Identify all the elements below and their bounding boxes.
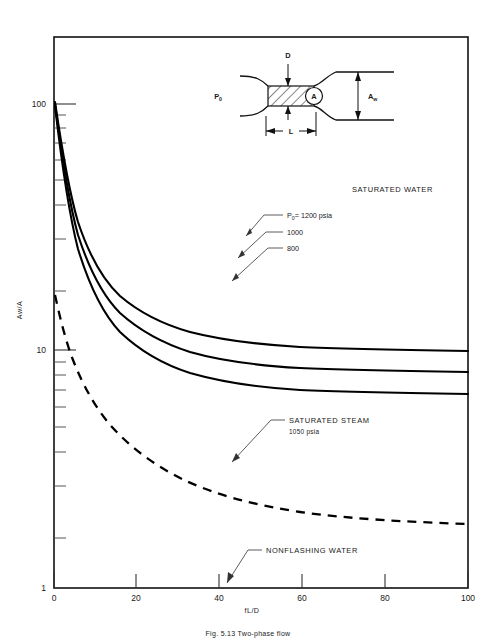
curve-label-1000: 1000 xyxy=(287,228,303,237)
schematic-pipe-area-sub: w xyxy=(372,96,378,102)
schematic-d-arrow-lower xyxy=(285,106,291,114)
annotation-saturated-water: SATURATED WATER xyxy=(352,185,433,194)
schematic-pipe-area-label: Aw xyxy=(368,92,378,102)
schematic-d-arrow-upper xyxy=(285,78,291,86)
x-tick-label-0: 0 xyxy=(52,593,57,603)
schematic-throat-area-label: A xyxy=(311,92,317,101)
schematic-aw-arrow-top xyxy=(355,72,361,81)
schematic-l-arrow-left xyxy=(266,128,275,134)
curve-label-1200: P0= 1200 psia xyxy=(287,211,332,221)
annotation-nonflashing-water: NONFLASHING WATER xyxy=(266,546,358,555)
y-tick-label-10: 10 xyxy=(37,345,47,355)
annotation-saturated-steam-pressure: 1050 psia xyxy=(289,428,320,436)
schematic-diameter-label: D xyxy=(285,51,291,60)
curve-p0-1000 xyxy=(55,104,468,372)
curve-label-800: 800 xyxy=(287,244,299,253)
x-axis-title: fL/D xyxy=(245,606,260,615)
nonflashing-water-leader xyxy=(227,550,262,583)
x-tick-label-100: 100 xyxy=(461,593,475,603)
y-axis-title: Aw/A xyxy=(15,301,24,319)
chart-canvas: 100 10 1 0 20 40 60 80 100 fL/D Aw/A xyxy=(0,0,496,642)
schematic-length-label: L xyxy=(289,127,294,136)
y-tick-label-1: 1 xyxy=(41,583,46,593)
x-tick-label-20: 20 xyxy=(131,593,141,603)
x-tick-label-40: 40 xyxy=(214,593,224,603)
annotation-saturated-steam: SATURATED STEAM xyxy=(289,416,369,425)
figure-two-phase-flow: 100 10 1 0 20 40 60 80 100 fL/D Aw/A xyxy=(0,0,496,642)
schematic-downstream-wall-bottom xyxy=(314,106,394,120)
schematic-inlet-pressure-label: P0 xyxy=(214,92,222,102)
x-axis-ticks xyxy=(54,572,468,588)
plot-frame xyxy=(54,37,468,588)
x-tick-label-80: 80 xyxy=(380,593,390,603)
schematic-aw-arrow-bottom xyxy=(355,111,361,120)
schematic-downstream-wall-top xyxy=(314,72,394,86)
figure-caption: Fig. 5.13 Two-phase flow xyxy=(206,630,292,638)
curve-label-1200-suffix: = 1200 psia xyxy=(295,211,332,220)
y-tick-label-100: 100 xyxy=(32,99,46,109)
x-tick-label-60: 60 xyxy=(297,593,307,603)
nozzle-schematic: A D L Aw P0 xyxy=(214,51,394,136)
curve-p0-1200 xyxy=(55,102,468,351)
saturated-steam-leader xyxy=(232,420,285,462)
schematic-upstream-wall-bottom xyxy=(240,106,268,116)
schematic-upstream-wall-top xyxy=(240,76,268,86)
schematic-inlet-pressure-sub: 0 xyxy=(219,96,222,102)
curve-label-leaders xyxy=(232,215,283,281)
schematic-l-arrow-right xyxy=(307,128,316,134)
